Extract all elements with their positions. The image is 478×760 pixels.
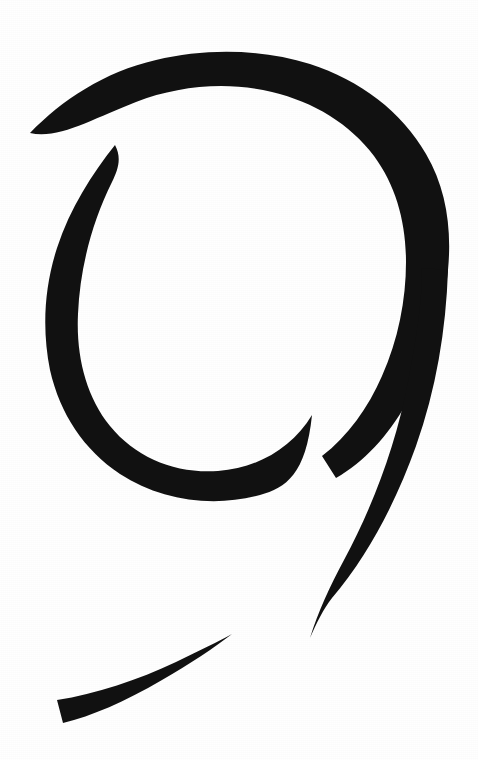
calligraphic-nine-glyph bbox=[0, 0, 478, 760]
glyph-artboard: Calligraphic glyph 9 Scanned ornamental … bbox=[0, 0, 478, 760]
